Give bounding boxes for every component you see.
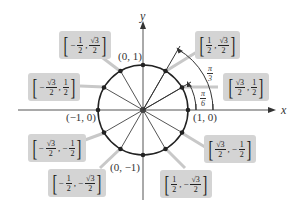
math-text: − xyxy=(70,40,75,50)
coord-box-5pi-3: [ 12 ,− √32 ] xyxy=(160,170,212,198)
math-text: √3 xyxy=(190,175,200,185)
fraction: 12 xyxy=(206,36,212,55)
math-text: 1 xyxy=(251,78,257,88)
bracket: ] xyxy=(77,136,82,160)
math-text: , xyxy=(214,40,216,50)
math-text: 2 xyxy=(194,185,198,194)
math-text: 1 xyxy=(66,174,72,184)
fraction: √32 xyxy=(190,175,200,194)
math-text: 2 xyxy=(49,88,53,97)
math-text: 1 xyxy=(69,139,75,149)
math-text: 1 xyxy=(63,78,69,88)
coord-box-2pi-3: [− 12 , √32 ] xyxy=(59,31,111,59)
fraction: √32 xyxy=(218,36,228,55)
point-label-left: (−1, 0) xyxy=(66,111,96,123)
math-text: − xyxy=(183,179,188,189)
math-text: , xyxy=(85,40,87,50)
point-label-right: (1, 0) xyxy=(193,111,217,123)
math-text: 2 xyxy=(218,150,222,159)
math-text: 2 xyxy=(252,88,256,97)
fraction: 12 xyxy=(251,78,257,97)
math-text: 2 xyxy=(207,46,211,55)
bracket: ] xyxy=(202,172,207,196)
math-text: , xyxy=(228,144,230,154)
fraction: √32 xyxy=(46,78,56,97)
math-text: 2 xyxy=(238,88,242,97)
bracket: [ xyxy=(64,33,69,57)
math-text: 2 xyxy=(70,149,74,158)
math-text: 2 xyxy=(67,184,71,193)
bracket: [ xyxy=(52,171,57,195)
arc-arrow-icon xyxy=(187,81,192,87)
math-text: 2 xyxy=(222,46,226,55)
fraction: √32 xyxy=(85,174,95,193)
coord-box-11pi-6: [ √32 ,− 12 ] xyxy=(204,135,256,163)
math-text: − xyxy=(232,144,237,154)
fraction: 12 xyxy=(63,78,69,97)
bracket: [ xyxy=(32,136,37,160)
math-text: √3 xyxy=(85,174,95,184)
coord-box-4pi-3: [− 12 ,− √32 ] xyxy=(48,169,106,197)
bracket: ] xyxy=(230,33,235,57)
math-text: 1 xyxy=(239,140,245,150)
math-text: , xyxy=(59,82,61,92)
math-text: − xyxy=(78,178,83,188)
bracket: [ xyxy=(33,75,38,99)
fraction: 12 xyxy=(66,174,72,193)
fraction: 12 xyxy=(77,36,83,55)
math-text: 1 xyxy=(206,36,212,46)
bracket: [ xyxy=(209,137,214,161)
math-text: √3 xyxy=(46,139,56,149)
bracket: [ xyxy=(228,75,233,99)
fraction: 12 xyxy=(239,140,245,159)
coord-box-pi-6: [ √32 , 12 ] xyxy=(223,73,269,101)
bracket: ] xyxy=(97,171,102,195)
fraction: √32 xyxy=(46,139,56,158)
math-text: √3 xyxy=(46,78,56,88)
math-text: 2 xyxy=(78,46,82,55)
math-text: √3 xyxy=(235,78,245,88)
x-axis-arrow-icon xyxy=(268,107,276,113)
angle-pi-over-3: π 3 xyxy=(207,64,213,83)
math-text: , xyxy=(74,178,76,188)
math-text: 1 xyxy=(171,175,177,185)
coord-box-7pi-6: [− √32 ,− 12 ] xyxy=(28,134,86,162)
math-text: 1 xyxy=(77,36,83,46)
math-text: − xyxy=(62,143,67,153)
fraction: √32 xyxy=(235,78,245,97)
math-text: 2 xyxy=(93,46,97,55)
math-text: , xyxy=(179,179,181,189)
bracket: ] xyxy=(246,137,251,161)
math-text: √3 xyxy=(218,36,228,46)
leader-lines xyxy=(80,50,218,168)
y-axis-label: y xyxy=(140,9,145,24)
math-text: , xyxy=(247,82,249,92)
bracket: ] xyxy=(70,75,75,99)
math-text: − xyxy=(59,178,64,188)
math-text: 2 xyxy=(49,149,53,158)
bracket: ] xyxy=(259,75,264,99)
point-label-top: (0, 1) xyxy=(118,50,142,62)
angle-pi-over-6: π 6 xyxy=(200,89,206,108)
coord-box-pi-3: [ 12 , √32 ] xyxy=(195,31,240,59)
bracket: [ xyxy=(200,33,205,57)
math-text: , xyxy=(58,143,60,153)
math-text: 2 xyxy=(240,150,244,159)
math-text: 2 xyxy=(172,185,176,194)
unit-circle-diagram xyxy=(0,0,303,211)
math-text: √3 xyxy=(215,140,225,150)
math-text: 2 xyxy=(88,184,92,193)
coord-box-5pi-6: [− √32 , 12 ] xyxy=(28,73,80,101)
fraction: √32 xyxy=(215,140,225,159)
math-text: − xyxy=(39,82,44,92)
math-text: √3 xyxy=(89,36,99,46)
fraction: √32 xyxy=(89,36,99,55)
math-text: 2 xyxy=(64,88,68,97)
bracket: [ xyxy=(165,172,170,196)
point-label-bottom: (0, −1) xyxy=(110,161,140,173)
bracket: ] xyxy=(101,33,106,57)
fraction: 12 xyxy=(69,139,75,158)
fraction: 12 xyxy=(171,175,177,194)
x-axis-label: x xyxy=(281,103,286,118)
math-text: − xyxy=(39,143,44,153)
